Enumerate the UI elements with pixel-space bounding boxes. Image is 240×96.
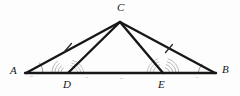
geometry-figure: A B C D E	[0, 0, 240, 96]
segment-ce	[120, 22, 163, 73]
vertex-label-a: A	[10, 65, 17, 76]
angle-arc-adc	[52, 61, 64, 73]
segment-cd	[68, 22, 120, 73]
scan-artifacts	[30, 76, 198, 79]
angle-arc-ceb	[165, 59, 179, 73]
vertex-label-c: C	[117, 2, 124, 13]
segment-ac	[26, 22, 120, 73]
vertex-label-b: B	[222, 64, 229, 75]
diagram-canvas	[0, 0, 240, 96]
vertex-label-d: D	[63, 79, 71, 90]
vertex-label-e: E	[158, 79, 165, 90]
